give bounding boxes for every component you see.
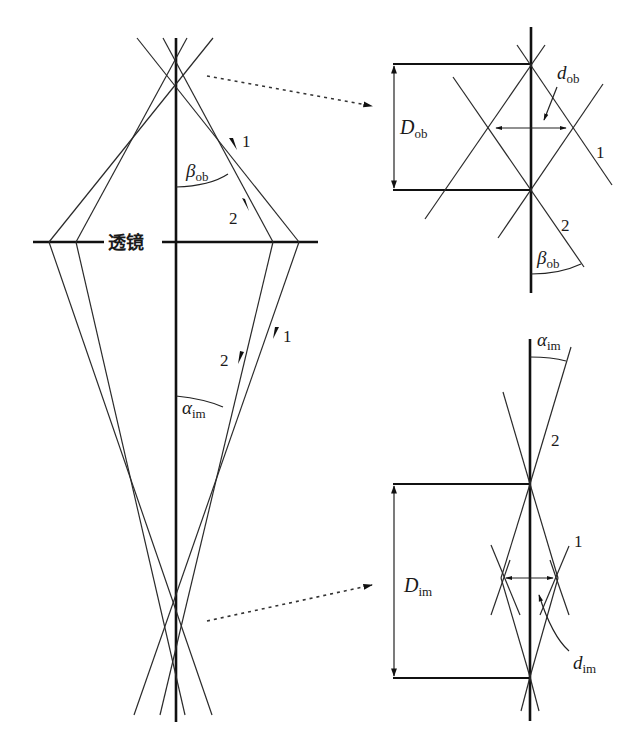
image-crossover-detail: Dim dim 1 2 αim — [393, 329, 596, 721]
d-ob-pointer — [544, 87, 557, 120]
ray-2-image-left — [76, 242, 185, 715]
main-ray-diagram: 透镜 1 2 1 2 βob αim — [33, 38, 318, 722]
lens-label: 透镜 — [108, 232, 144, 253]
lens-ray-diagram: 透镜 1 2 1 2 βob αim — [0, 0, 641, 746]
object-ray-1-label: 1 — [596, 143, 605, 162]
image-ray-1-right-a — [540, 546, 569, 615]
object-ray-b — [498, 84, 603, 238]
image-ray-2-upper — [530, 347, 571, 484]
object-ray-a — [425, 45, 545, 219]
ray-2-object-left — [76, 38, 187, 242]
ray-2-arrow-bottom — [238, 351, 244, 364]
image-ray-inner-right-bottom — [530, 578, 558, 677]
ray-1-arrow-bottom — [273, 327, 279, 339]
d-im-label: dim — [573, 652, 596, 676]
image-ray-upper-left — [503, 392, 530, 484]
image-ray-1-label: 1 — [574, 532, 583, 551]
image-ray-2-label: 2 — [551, 431, 560, 450]
pointer-to-object-detail — [207, 76, 372, 106]
ray-1-label-bottom: 1 — [283, 327, 292, 346]
object-ray-2-label: 2 — [561, 216, 570, 235]
ray-2-label-top: 2 — [229, 209, 238, 228]
image-alpha-arc — [530, 357, 566, 361]
beta-ob-label: βob — [185, 160, 208, 184]
object-crossover-detail: Dob dob 1 2 βob — [393, 27, 612, 293]
D-ob-label: Dob — [399, 116, 427, 141]
D-im-label: Dim — [403, 574, 432, 599]
ray-2-object-right — [163, 38, 273, 242]
object-ray-2-down — [453, 77, 584, 267]
image-ray-1-left-a — [491, 545, 520, 615]
ray-2-label-bottom: 2 — [220, 351, 229, 370]
image-ray-inner-right-top — [530, 484, 558, 578]
image-alpha-label: αim — [537, 329, 561, 353]
ray-1-label-top: 1 — [242, 132, 251, 151]
object-beta-label: βob — [536, 247, 559, 271]
ray-2-arrow-top — [242, 198, 249, 211]
image-ray-inner-left-top — [501, 484, 530, 578]
image-ray-tail-left — [521, 677, 530, 711]
pointer-to-image-detail — [207, 585, 372, 621]
ray-1-arrow-top — [229, 138, 237, 150]
diagram-canvas: 透镜 1 2 1 2 βob αim — [0, 0, 641, 746]
image-ray-tail-right — [530, 677, 539, 711]
d-ob-label: dob — [557, 62, 580, 86]
image-ray-inner-left-bottom — [501, 578, 530, 677]
